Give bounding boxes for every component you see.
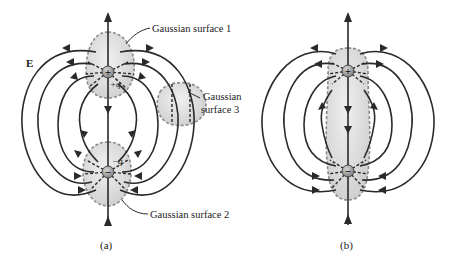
label-gaussian-surface-2: Gaussian surface 2: [150, 209, 229, 220]
minus-symbol-a: −: [105, 166, 111, 178]
dipole-figure: + −: [0, 0, 471, 263]
caption-a: (a): [100, 239, 112, 251]
plus-symbol-b: +: [345, 65, 351, 77]
label-minus-q: −q: [112, 156, 123, 166]
panel-a: + −: [22, 12, 206, 226]
label-gaussian-surface-1: Gaussian surface 1: [152, 23, 231, 34]
label-plus-q: +q: [110, 79, 121, 89]
minus-symbol-b: −: [345, 165, 351, 177]
caption-b: (b): [340, 239, 353, 251]
field-lines-b: [262, 14, 434, 225]
label-gaussian-surface-3-line2: surface 3: [201, 104, 239, 115]
plus-symbol-a: +: [105, 66, 111, 78]
label-gaussian-surface-3-line1: Gaussian: [203, 91, 242, 102]
gaussian-surface-3: [157, 83, 206, 126]
panel-b: + −: [262, 12, 434, 225]
electric-field-label: E: [26, 57, 33, 69]
